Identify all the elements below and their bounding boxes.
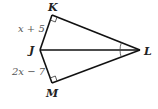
vertex-label-m: M bbox=[45, 87, 59, 100]
segment-kl bbox=[52, 15, 140, 50]
side-label-jk: x + 5 bbox=[18, 23, 45, 34]
segment-ml bbox=[52, 50, 140, 83]
side-label-jm: 2x − 7 bbox=[11, 66, 46, 77]
vertex-label-k: K bbox=[47, 1, 58, 14]
kite-diagram: K J L M x + 5 2x − 7 bbox=[0, 0, 158, 109]
angle-arc-mlj bbox=[120, 50, 121, 57]
angle-arc-klj bbox=[120, 43, 121, 50]
vertex-label-j: J bbox=[27, 44, 35, 57]
vertex-label-l: L bbox=[143, 45, 152, 58]
